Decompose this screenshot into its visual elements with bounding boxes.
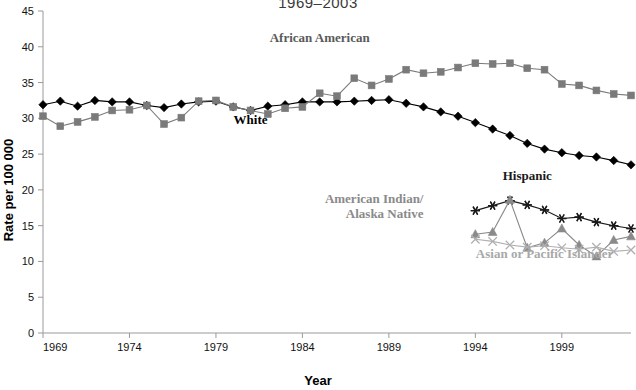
data-point-diamond bbox=[437, 108, 445, 116]
x-tick-label: 1994 bbox=[463, 341, 487, 353]
data-point-square bbox=[74, 119, 81, 126]
series-label-american-indian-alaska-native: American Indian/ bbox=[325, 191, 424, 206]
data-point-square bbox=[628, 92, 635, 99]
data-point-asterisk bbox=[540, 206, 549, 214]
data-point-square bbox=[282, 105, 289, 112]
data-point-square bbox=[143, 102, 150, 109]
x-axis-title: Year bbox=[304, 373, 331, 388]
series-label-group: WhiteAfrican AmericanHispanicAmerican In… bbox=[234, 30, 614, 260]
data-point-asterisk bbox=[523, 201, 532, 209]
x-tick-label: 1974 bbox=[117, 341, 141, 353]
data-point-square bbox=[507, 60, 514, 67]
data-point-square bbox=[541, 66, 548, 73]
data-point-square bbox=[593, 87, 600, 94]
y-axis: 051015202530354045 bbox=[22, 5, 43, 339]
data-point-diamond bbox=[73, 102, 81, 110]
data-point-asterisk bbox=[471, 207, 480, 215]
data-point-square bbox=[489, 61, 496, 68]
data-point-diamond bbox=[160, 103, 168, 111]
y-tick-label: 15 bbox=[22, 220, 34, 232]
data-point-square bbox=[316, 90, 323, 97]
data-point-diamond bbox=[627, 161, 635, 169]
data-point-square bbox=[368, 82, 375, 89]
data-point-diamond bbox=[56, 97, 64, 105]
data-point-diamond bbox=[471, 118, 479, 126]
series-label-hispanic: Hispanic bbox=[503, 168, 552, 183]
data-point-square bbox=[610, 91, 617, 98]
data-series-group bbox=[39, 60, 636, 260]
data-point-diamond bbox=[385, 96, 393, 104]
data-point-square bbox=[524, 65, 531, 72]
data-point-square bbox=[40, 113, 47, 120]
data-point-triangle bbox=[488, 228, 497, 236]
data-point-asterisk bbox=[557, 215, 566, 223]
data-point-square bbox=[299, 103, 306, 110]
data-point-diamond bbox=[177, 100, 185, 108]
data-point-square bbox=[230, 103, 237, 110]
y-tick-label: 35 bbox=[22, 77, 34, 89]
x-tick-label: 1969 bbox=[43, 341, 67, 353]
y-tick-label: 5 bbox=[28, 291, 34, 303]
data-point-asterisk bbox=[575, 213, 584, 221]
data-point-square bbox=[161, 121, 168, 128]
data-point-square bbox=[455, 64, 462, 71]
x-tick-label: 1979 bbox=[204, 341, 228, 353]
data-point-square bbox=[126, 106, 133, 113]
y-tick-label: 25 bbox=[22, 148, 34, 160]
data-point-square bbox=[109, 107, 116, 114]
data-point-square bbox=[437, 68, 444, 75]
data-point-diamond bbox=[316, 98, 324, 106]
data-point-diamond bbox=[91, 96, 99, 104]
y-tick-label: 10 bbox=[22, 255, 34, 267]
data-point-square bbox=[178, 114, 185, 121]
y-tick-label: 20 bbox=[22, 184, 34, 196]
data-point-square bbox=[472, 60, 479, 67]
data-point-diamond bbox=[592, 153, 600, 161]
data-point-square bbox=[403, 66, 410, 73]
data-point-square bbox=[385, 76, 392, 83]
data-point-diamond bbox=[350, 97, 358, 105]
data-point-square bbox=[334, 93, 341, 100]
data-point-diamond bbox=[488, 125, 496, 133]
data-point-asterisk bbox=[488, 202, 497, 210]
data-point-square bbox=[576, 82, 583, 89]
y-tick-label: 30 bbox=[22, 112, 34, 124]
data-point-diamond bbox=[125, 98, 133, 106]
data-point-diamond bbox=[39, 101, 47, 109]
chart-figure: 1969–2003 051015202530354045 19691974197… bbox=[0, 0, 636, 390]
data-point-diamond bbox=[419, 103, 427, 111]
x-tick-label: 1984 bbox=[290, 341, 314, 353]
y-tick-label: 0 bbox=[28, 327, 34, 339]
data-point-diamond bbox=[367, 96, 375, 104]
data-point-triangle bbox=[627, 232, 636, 240]
data-point-triangle bbox=[557, 224, 566, 232]
data-point-square bbox=[420, 70, 427, 77]
series-label-american-indian-alaska-native: Alaska Native bbox=[346, 206, 424, 221]
x-tick-label: 1999 bbox=[550, 341, 574, 353]
data-point-diamond bbox=[264, 102, 272, 110]
x-tick-label: 1989 bbox=[377, 341, 401, 353]
data-point-square bbox=[351, 75, 358, 82]
data-point-diamond bbox=[523, 139, 531, 147]
data-point-asterisk bbox=[592, 218, 601, 226]
data-point-diamond bbox=[558, 148, 566, 156]
data-point-asterisk bbox=[609, 222, 618, 230]
y-axis-title: Rate per 100 000 bbox=[1, 139, 16, 242]
data-point-square bbox=[91, 114, 98, 121]
data-point-square bbox=[195, 98, 202, 105]
data-point-diamond bbox=[610, 156, 618, 164]
data-point-square bbox=[57, 123, 64, 130]
x-axis: 1969197419791984198919941999 bbox=[43, 333, 631, 353]
series-african-american bbox=[40, 60, 635, 130]
series-label-asian-or-pacific-islander: Asian or Pacific Islander bbox=[476, 246, 614, 261]
series-label-african-american: African American bbox=[270, 30, 371, 45]
chart-plot-area: 051015202530354045 196919741979198419891… bbox=[0, 0, 636, 390]
y-tick-label: 40 bbox=[22, 41, 34, 53]
data-point-diamond bbox=[540, 145, 548, 153]
data-point-square bbox=[558, 81, 565, 88]
data-point-diamond bbox=[454, 112, 462, 120]
data-point-diamond bbox=[108, 98, 116, 106]
data-point-diamond bbox=[575, 151, 583, 159]
series-label-white: White bbox=[234, 112, 268, 127]
data-point-triangle bbox=[506, 195, 515, 203]
